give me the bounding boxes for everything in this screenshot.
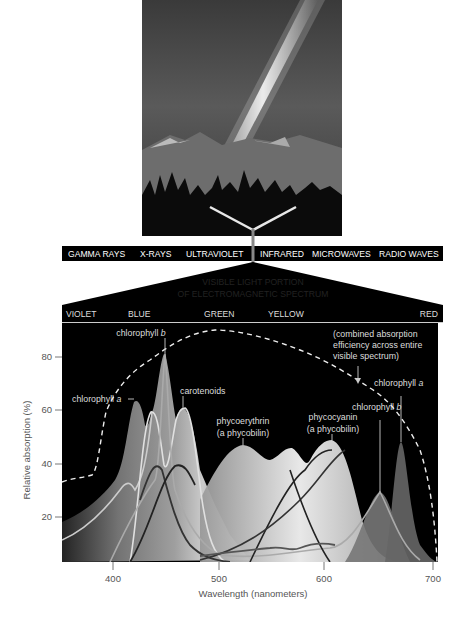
x-tick-labels: 400 500 600 700 [105,573,441,584]
y-axis [55,357,62,517]
band-green: GREEN [204,309,235,319]
svg-text:chlorophyll a: chlorophyll a [374,378,424,388]
svg-text:chlorophyll b: chlorophyll b [352,402,402,412]
label-phycocyanin-sub: (a phycobilin) [307,424,359,434]
y-tick-labels: 80 60 40 20 [41,351,52,522]
svg-text:80: 80 [41,351,52,362]
svg-text:600: 600 [316,573,332,584]
spectrum-ultraviolet: ULTRAVIOLET [186,249,244,259]
svg-text:60: 60 [41,404,52,415]
spectrum-microwaves: MICROWAVES [312,249,371,259]
svg-text:500: 500 [211,573,227,584]
visible-caption-line2: OF ELECTROMAGNETIC SPECTRUM [178,289,329,299]
visible-caption-line1: VISIBLE LIGHT PORTION [202,277,303,287]
band-yellow: YELLOW [268,309,305,319]
label-carotenoids: carotenoids [180,386,226,396]
label-phycoerythrin-sub: (a phycobilin) [217,428,269,438]
y-axis-label: Relative absorption (%) [21,401,32,500]
spectrum-radio-waves: RADIO WAVES [379,249,439,259]
svg-text:chlorophyll a: chlorophyll a [72,394,122,404]
svg-text:700: 700 [425,573,441,584]
label-combined-1: (combined absorption [333,329,418,339]
pigment-absorption-diagram: GAMMA RAYS X-RAYS ULTRAVIOLET INFRARED M… [0,0,463,633]
x-axis-label: Wavelength (nanometers) [199,588,308,599]
label-combined-2: efficiency across entire [333,340,422,350]
svg-text:20: 20 [41,511,52,522]
spectrum-x-rays: X-RAYS [140,249,172,259]
spectrum-infrared: INFRARED [260,249,304,259]
label-phycocyanin: phycocyanin [309,412,358,422]
label-combined-3: visible spectrum) [333,351,399,361]
band-red: RED [420,309,438,319]
svg-text:400: 400 [105,573,121,584]
svg-text:40: 40 [41,458,52,469]
x-axis [113,562,433,570]
band-violet: VIOLET [66,309,97,319]
sunlight-photo [142,0,342,236]
spectrum-gamma-rays: GAMMA RAYS [68,249,125,259]
electromagnetic-spectrum-bar: GAMMA RAYS X-RAYS ULTRAVIOLET INFRARED M… [62,246,443,261]
band-blue: BLUE [128,309,151,319]
svg-text:chlorophyll b: chlorophyll b [116,328,166,338]
label-phycoerythrin: phycoerythrin [217,416,270,426]
